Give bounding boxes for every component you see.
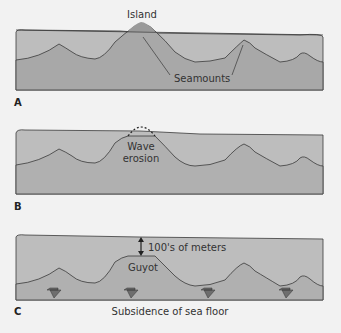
erosion-label: erosion xyxy=(123,153,160,164)
subsidence-label: Subsidence of sea floor xyxy=(112,306,230,317)
panel-letter-c: C xyxy=(14,306,21,317)
panel-letter-b: B xyxy=(14,201,22,212)
seamounts-label: Seamounts xyxy=(174,73,230,84)
island-label: Island xyxy=(127,9,157,20)
panel-letter-a: A xyxy=(14,97,22,108)
island-peak xyxy=(128,22,155,31)
depth-label: 100's of meters xyxy=(148,242,226,253)
guyot-label: Guyot xyxy=(128,262,158,273)
panel-b: Wave erosion B xyxy=(14,127,323,212)
panel-c: 100's of meters Guyot C Subsidence of se… xyxy=(14,235,323,317)
panel-a: Island Seamounts A xyxy=(14,9,323,108)
seamount-guyot-diagram: Island Seamounts A Wave erosion B 100's … xyxy=(0,0,341,333)
wave-label: Wave xyxy=(127,141,154,152)
